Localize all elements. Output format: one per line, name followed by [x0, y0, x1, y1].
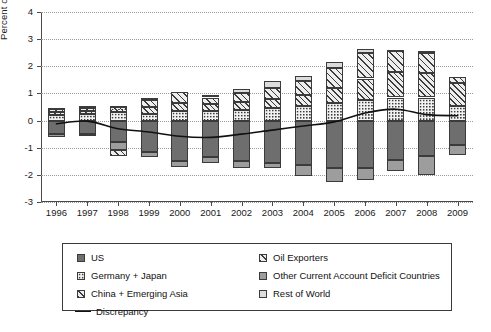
legend: USOil ExportersGermany + JapanOther Curr… [62, 243, 452, 311]
x-tick-label-2008: 2008 [411, 208, 443, 218]
x-tick-mark-2007 [396, 202, 397, 206]
legend-swatch-icon [77, 272, 85, 280]
legend-item[interactable]: Oil Exporters [259, 250, 328, 265]
legend-swatch-icon [259, 290, 267, 298]
x-tick-mark-1999 [149, 202, 150, 206]
legend-item[interactable]: Discrepancy [75, 304, 148, 319]
x-tick-label-1998: 1998 [102, 208, 134, 218]
legend-swatch-icon [77, 290, 85, 298]
y-tick-label-2: 2 [11, 61, 33, 71]
legend-line-icon [75, 311, 91, 312]
x-tick-mark-2004 [303, 202, 304, 206]
y-tick-mark--3 [37, 202, 41, 203]
legend-label: Germany + Japan [91, 271, 167, 281]
legend-label: Other Current Account Deficit Countries [273, 271, 440, 281]
x-tick-mark-2005 [334, 202, 335, 206]
legend-label: Oil Exporters [273, 253, 328, 263]
legend-label: US [91, 253, 104, 263]
y-tick-label-4: 4 [11, 7, 33, 17]
x-tick-label-1996: 1996 [40, 208, 72, 218]
legend-label: Discrepancy [96, 307, 148, 317]
plot-area: 43210-1-2-3 1996199719981999200020012002… [41, 12, 473, 202]
x-tick-label-2005: 2005 [318, 208, 350, 218]
y-tick-label-1: 1 [11, 88, 33, 98]
legend-item[interactable]: China + Emerging Asia [77, 286, 188, 301]
x-tick-mark-2006 [365, 202, 366, 206]
x-tick-mark-1997 [87, 202, 88, 206]
x-tick-label-1997: 1997 [71, 208, 103, 218]
legend-label: Rest of World [273, 289, 330, 299]
y-tick-label-3: 3 [11, 34, 33, 44]
y-tick-label--1: -1 [11, 143, 33, 153]
x-tick-label-2006: 2006 [349, 208, 381, 218]
x-tick-mark-2000 [180, 202, 181, 206]
legend-item[interactable]: Rest of World [259, 286, 330, 301]
x-tick-label-2001: 2001 [195, 208, 227, 218]
legend-swatch-icon [77, 254, 85, 262]
x-tick-label-2000: 2000 [164, 208, 196, 218]
legend-label: China + Emerging Asia [91, 289, 188, 299]
gridline--3 [41, 202, 473, 203]
y-tick-label-0: 0 [11, 116, 33, 126]
y-tick-label--3: -3 [11, 197, 33, 207]
x-tick-mark-2002 [242, 202, 243, 206]
legend-swatch-icon [259, 254, 267, 262]
x-tick-label-2003: 2003 [256, 208, 288, 218]
x-tick-mark-2001 [211, 202, 212, 206]
x-tick-mark-2008 [427, 202, 428, 206]
y-axis-title-text: Percent of Global GDP [0, 0, 9, 40]
chart-figure: Percent of Global GDP 43210-1-2-3 199619… [0, 0, 491, 332]
y-tick-label--2: -2 [11, 170, 33, 180]
legend-swatch-icon [259, 272, 267, 280]
legend-item[interactable]: Other Current Account Deficit Countries [259, 268, 440, 283]
legend-item[interactable]: Germany + Japan [77, 268, 167, 283]
x-tick-mark-2003 [272, 202, 273, 206]
x-tick-mark-1998 [118, 202, 119, 206]
x-tick-label-2007: 2007 [380, 208, 412, 218]
x-tick-label-2009: 2009 [442, 208, 474, 218]
x-tick-label-1999: 1999 [133, 208, 165, 218]
x-tick-mark-2009 [458, 202, 459, 206]
x-tick-mark-1996 [56, 202, 57, 206]
legend-item[interactable]: US [77, 250, 104, 265]
x-tick-label-2004: 2004 [287, 208, 319, 218]
discrepancy-line [41, 12, 473, 202]
x-tick-label-2002: 2002 [226, 208, 258, 218]
